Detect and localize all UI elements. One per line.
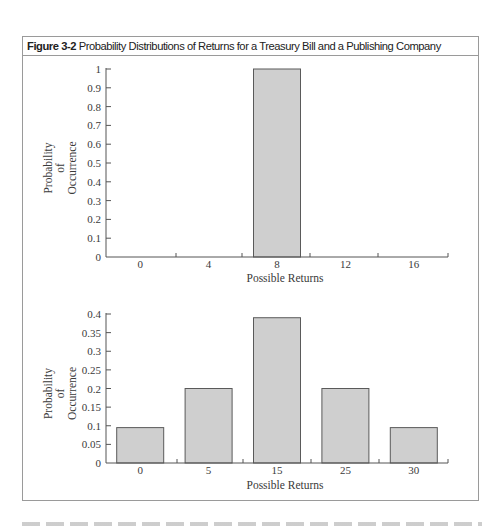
x-tick-label: 8 xyxy=(274,258,280,270)
y-tick-label: 0.15 xyxy=(82,401,102,413)
x-tick-label: 0 xyxy=(137,258,143,270)
y-tick-label: 0.1 xyxy=(87,232,101,244)
x-tick-label: 5 xyxy=(206,464,212,476)
bar-25 xyxy=(322,389,369,464)
y-tick-label: 0.6 xyxy=(87,138,101,150)
x-tick-label: 15 xyxy=(272,464,284,476)
charts-canvas: 048121600.10.20.30.40.50.60.70.80.91Poss… xyxy=(0,0,503,526)
cropped-body-text xyxy=(22,513,482,526)
bar-8 xyxy=(254,69,301,257)
y-tick-label: 0.35 xyxy=(82,327,102,339)
bar-30 xyxy=(390,428,437,463)
y-axis-title: ProbabilityofOccurrence xyxy=(42,367,78,420)
y-tick-label: 0.7 xyxy=(87,119,101,131)
y-tick-label: 0.25 xyxy=(82,364,102,376)
y-axis-title-line: Occurrence xyxy=(66,367,78,420)
y-tick-label: 0.1 xyxy=(87,420,101,432)
y-axis-title: ProbabilityofOccurrence xyxy=(42,142,78,195)
y-tick-label: 0.05 xyxy=(82,438,102,450)
chart-treasury-bill: 048121600.10.20.30.40.50.60.70.80.91Poss… xyxy=(42,63,448,284)
y-tick-label: 0.4 xyxy=(87,176,101,188)
y-tick-label: 0.4 xyxy=(87,308,101,320)
chart-publishing-company: 0515253000.050.10.150.20.250.30.350.4Pos… xyxy=(42,308,448,491)
bar-15 xyxy=(254,318,301,463)
y-tick-label: 0.9 xyxy=(87,82,101,94)
x-tick-label: 30 xyxy=(408,464,420,476)
x-tick-label: 16 xyxy=(408,258,420,270)
bar-5 xyxy=(185,389,232,464)
x-axis-title: Possible Returns xyxy=(247,272,325,284)
x-tick-label: 25 xyxy=(340,464,352,476)
y-tick-label: 1 xyxy=(96,63,102,75)
x-tick-label: 4 xyxy=(206,258,212,270)
y-tick-label: 0 xyxy=(96,457,102,469)
y-tick-label: 0.2 xyxy=(87,383,101,395)
x-axis-title: Possible Returns xyxy=(247,479,325,491)
y-tick-label: 0.3 xyxy=(87,345,101,357)
y-tick-label: 0.8 xyxy=(87,101,101,113)
y-tick-label: 0.5 xyxy=(87,157,101,169)
y-tick-label: 0.3 xyxy=(87,195,101,207)
x-tick-label: 0 xyxy=(137,464,143,476)
bar-0 xyxy=(117,428,164,463)
x-tick-label: 12 xyxy=(340,258,351,270)
y-axis-title-line: of xyxy=(54,389,66,399)
y-axis-title-line: of xyxy=(54,163,66,173)
y-tick-label: 0 xyxy=(96,251,102,263)
y-axis-title-line: Occurrence xyxy=(66,142,78,195)
y-tick-label: 0.2 xyxy=(87,213,101,225)
